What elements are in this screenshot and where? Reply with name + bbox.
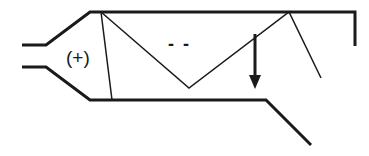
diagram-canvas: (+) - - bbox=[0, 0, 369, 156]
positive-region-label: (+) bbox=[66, 48, 90, 67]
negative-region-label: - - bbox=[168, 35, 191, 53]
downward-arrow-icon bbox=[249, 34, 261, 89]
leading-shock-line bbox=[101, 12, 112, 100]
zigzag-wave-lines bbox=[101, 12, 321, 88]
inlet-bottom-wall bbox=[22, 67, 311, 145]
channel-diagram bbox=[0, 0, 369, 156]
